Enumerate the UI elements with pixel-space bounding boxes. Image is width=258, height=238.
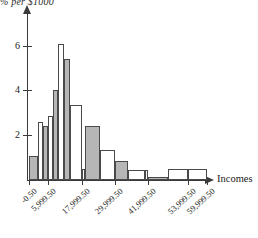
histogram-bar xyxy=(100,150,115,180)
histogram-chart: % per $1000 Incomes 246 -0.505,999.5017,… xyxy=(0,0,258,238)
histogram-bar xyxy=(188,169,207,180)
histogram-bar xyxy=(70,105,82,180)
histogram-bar xyxy=(29,156,38,180)
histogram-bar xyxy=(85,126,100,180)
histogram-bar xyxy=(148,177,168,180)
histogram-bar xyxy=(128,170,145,180)
bar-group xyxy=(0,0,258,238)
histogram-bar xyxy=(115,161,128,180)
histogram-bar xyxy=(168,169,188,180)
